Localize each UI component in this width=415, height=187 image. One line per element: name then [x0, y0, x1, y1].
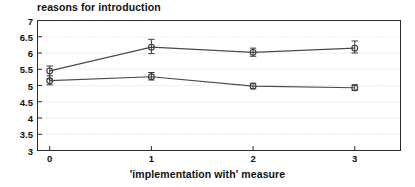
x-axis-label: 'implementation with' measure	[0, 168, 415, 180]
series-line-upper-series	[50, 47, 355, 71]
y-tick-label: 6.5	[5, 31, 33, 42]
y-tick-label: 6	[5, 48, 33, 59]
y-tick-label: 4.5	[5, 96, 33, 107]
y-tick-label: 5	[5, 80, 33, 91]
y-tick-label: 5.5	[5, 64, 33, 75]
x-tick-label: 3	[343, 153, 367, 164]
series-line-lower-series	[50, 77, 355, 88]
x-tick-label: 1	[139, 153, 163, 164]
y-tick-label: 3.5	[5, 129, 33, 140]
y-tick-label: 7	[5, 15, 33, 26]
x-tick-label: 0	[38, 153, 62, 164]
x-axis-tick-labels: 0123	[0, 153, 415, 169]
chart-figure: reasons for introduction 33.544.555.566.…	[0, 0, 415, 187]
y-tick-label: 4	[5, 113, 33, 124]
x-tick-label: 2	[241, 153, 265, 164]
